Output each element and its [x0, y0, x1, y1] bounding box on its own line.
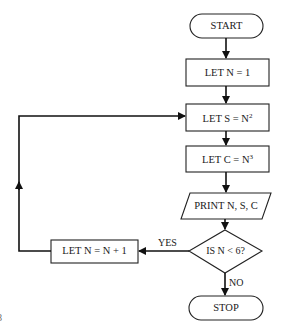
cube-label-base: LET C = N	[202, 154, 249, 165]
cube-label: LET C = N3	[186, 154, 269, 166]
edge-loop-back	[19, 116, 185, 251]
increment-label: LET N = N + 1	[51, 246, 138, 257]
cube-label-exponent: 3	[249, 153, 253, 161]
square-label-exponent: 2	[249, 112, 253, 120]
square-label: LET S = N2	[186, 113, 269, 125]
init-label: LET N = 1	[186, 68, 269, 79]
no-edge-label: NO	[229, 278, 243, 288]
stop-label: STOP	[189, 303, 263, 314]
margin-fragment: 8	[0, 313, 2, 323]
decision-label: IS N < 6?	[189, 246, 262, 256]
yes-edge-label: YES	[158, 238, 177, 248]
print-label: PRINT N, S, C	[181, 201, 271, 212]
start-label: START	[190, 21, 263, 32]
square-label-base: LET S = N	[203, 113, 249, 124]
